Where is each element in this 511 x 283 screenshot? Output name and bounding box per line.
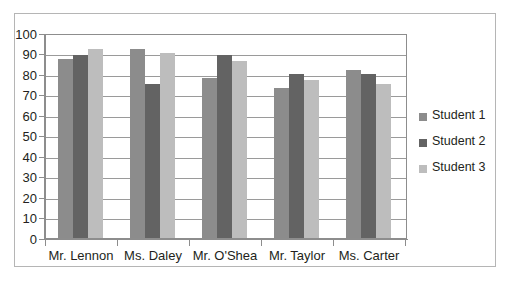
x-axis-tick [189, 240, 190, 246]
legend-swatch-icon [419, 139, 427, 147]
bar [346, 70, 361, 238]
legend-swatch-icon [419, 165, 427, 173]
x-axis-tick [261, 240, 262, 246]
bar [58, 59, 73, 238]
bar [130, 49, 145, 238]
chart-legend: Student 1 Student 2 Student 3 [419, 108, 495, 186]
bar [274, 88, 289, 238]
y-axis-tick-label: 70 [3, 89, 37, 102]
bar [88, 49, 103, 238]
x-axis-tick [45, 240, 46, 246]
bar [304, 80, 319, 238]
bar [361, 74, 376, 238]
legend-item-label: Student 1 [432, 108, 486, 123]
plot-area [45, 34, 407, 239]
y-axis-tick-label: 40 [3, 151, 37, 164]
x-axis-tick [117, 240, 118, 246]
legend-swatch-icon [419, 113, 427, 121]
y-axis-tick-label: 20 [3, 192, 37, 205]
legend-item[interactable]: Student 2 [419, 134, 495, 160]
bar [217, 55, 232, 238]
x-axis-line [44, 239, 408, 240]
bar [376, 84, 391, 238]
x-axis-tick [405, 240, 406, 246]
x-axis-tick-label: Mr. Taylor [261, 248, 333, 263]
x-axis-tick-label: Ms. Carter [333, 248, 405, 263]
y-axis-tick-label: 80 [3, 69, 37, 82]
y-axis-tick-label: 60 [3, 110, 37, 123]
x-axis-tick-label: Mr. Lennon [45, 248, 117, 263]
legend-item[interactable]: Student 1 [419, 108, 495, 134]
bar [232, 61, 247, 238]
bar [160, 53, 175, 238]
y-axis-tick-label: 0 [3, 233, 37, 246]
legend-item-label: Student 2 [432, 134, 486, 149]
bar [145, 84, 160, 238]
x-axis-tick [333, 240, 334, 246]
bar [289, 74, 304, 238]
y-axis-tick-label: 100 [3, 28, 37, 41]
x-axis-tick-label: Ms. Daley [117, 248, 189, 263]
bar [202, 78, 217, 238]
bar-chart-figure: 100 90 80 70 60 50 40 30 20 10 0 Mr. Len… [0, 0, 511, 283]
bar [73, 55, 88, 238]
x-axis-tick-label: Mr. O'Shea [189, 248, 261, 263]
legend-item[interactable]: Student 3 [419, 160, 495, 186]
y-axis-tick-label: 30 [3, 171, 37, 184]
legend-item-label: Student 3 [432, 160, 486, 175]
y-axis-tick-labels: 100 90 80 70 60 50 40 30 20 10 0 [0, 0, 37, 283]
y-axis-tick-label: 90 [3, 48, 37, 61]
y-axis-tick-label: 10 [3, 212, 37, 225]
y-axis-tick-label: 50 [3, 130, 37, 143]
